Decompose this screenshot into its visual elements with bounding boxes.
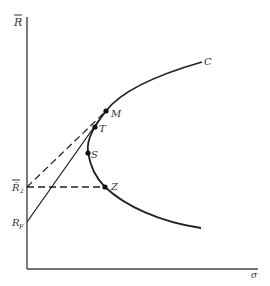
curve-label: C [204,56,212,67]
svg-text:S: S [91,149,98,160]
svg-text:R: R [13,16,22,29]
efficient-frontier-diagram: R σ C M T S Z R̄ 2 R F [0,0,270,286]
svg-text:Z: Z [110,181,119,192]
point-s: S [85,149,98,160]
svg-text:T: T [99,123,107,134]
capital-market-line [27,120,99,222]
x-axis-label: σ [251,270,258,280]
r-f-label: R F [11,217,25,231]
y-axis-label: R [13,15,22,29]
svg-text:F: F [18,223,25,231]
r-bar-2-label: R̄ 2 [11,180,24,194]
frontier-curve [88,62,202,228]
svg-text:R̄: R̄ [11,182,20,193]
svg-text:2: 2 [19,187,24,194]
point-t: T [92,123,107,134]
point-m: M [103,108,122,119]
svg-text:M: M [110,108,122,119]
point-z: Z [102,181,119,192]
